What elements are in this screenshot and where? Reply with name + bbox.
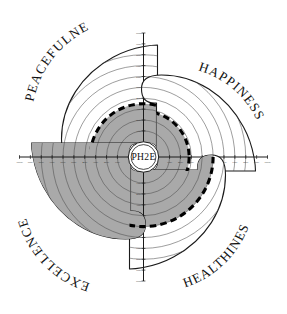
axis-tick-label: 30% (136, 107, 142, 111)
axis-tick-label: 90% (136, 42, 142, 46)
axis-tick-label: 60% (136, 75, 142, 79)
axis-tick-label: 80% (243, 160, 249, 164)
axis-tick-label: 50% (71, 160, 77, 164)
petal-diagram-canvas: 10%20%30%40%50%60%70%80%90%100% 10%20%30… (0, 0, 287, 314)
axis-tick-label: 70% (50, 160, 56, 164)
axis-tick-label: 100% (136, 279, 143, 283)
axis-tick-label: 90% (28, 160, 34, 164)
ph2e-petal-chart: 10%20%30%40%50%60%70%80%90%100% 10%20%30… (0, 0, 287, 314)
axis-tick-label: 90% (254, 160, 260, 164)
axis-tick-label: 90% (136, 268, 142, 272)
axis-tick-label: 70% (136, 246, 142, 250)
axis-tick-label: 70% (136, 64, 142, 68)
petal-label-peacefulness: PEACEFULNESS (0, 0, 91, 103)
axis-tick-label: 30% (136, 203, 142, 207)
axis-tick-label: 100% (264, 160, 271, 164)
axis-tick-label: 10% (136, 181, 142, 185)
hub-label: PH2E (131, 151, 155, 162)
axis-tick-label: 100% (16, 160, 23, 164)
axis-tick-label: 10% (167, 160, 173, 164)
axis-tick-label: 20% (136, 118, 142, 122)
axis-tick-label: 20% (136, 192, 142, 196)
axis-tick-label: 80% (39, 160, 45, 164)
axis-tick-label: 30% (93, 160, 99, 164)
axis-tick-label: 70% (232, 160, 238, 164)
axis-tick-label: 20% (104, 160, 110, 164)
axis-tick-label: 80% (136, 257, 142, 261)
axis-tick-label: 80% (136, 53, 142, 57)
axis-tick-label: 40% (136, 96, 142, 100)
axis-tick-label: 40% (82, 160, 88, 164)
axis-tick-label: 20% (178, 160, 184, 164)
axis-tick-label: 10% (115, 160, 121, 164)
axis-tick-label: 60% (60, 160, 66, 164)
axis-tick-label: 100% (136, 31, 143, 35)
petal-label-excellence: EXCELLENCE (14, 216, 91, 295)
axis-tick-label: 10% (136, 129, 142, 133)
hub: PH2E (128, 142, 158, 172)
